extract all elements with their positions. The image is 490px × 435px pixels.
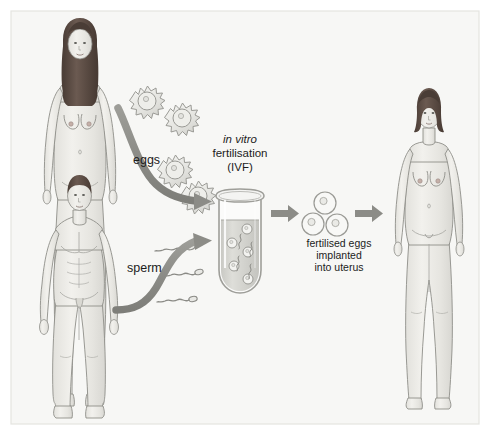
test-tube bbox=[216, 189, 264, 293]
ivf-title-line1: in vitro bbox=[223, 133, 257, 145]
ivf-title-line3: (IVF) bbox=[227, 161, 253, 173]
ivf-title-line2: fertilisation bbox=[213, 147, 268, 159]
eggs-label: eggs bbox=[133, 153, 160, 167]
fertilised-egg bbox=[314, 192, 336, 214]
fertilised-egg bbox=[302, 213, 324, 235]
fertilised-egg bbox=[326, 214, 348, 236]
uterus-caption-line1: fertilised eggs bbox=[307, 237, 372, 249]
ivf-diagram-figure: eggs sperm in vitro fertilisation (IVF) … bbox=[0, 0, 490, 435]
uterus-caption-line2: implanted bbox=[316, 249, 362, 261]
sperm-label: sperm bbox=[127, 261, 162, 275]
uterus-caption-line3: into uterus bbox=[314, 261, 363, 273]
ivf-diagram-canvas: eggs sperm in vitro fertilisation (IVF) … bbox=[0, 0, 490, 435]
